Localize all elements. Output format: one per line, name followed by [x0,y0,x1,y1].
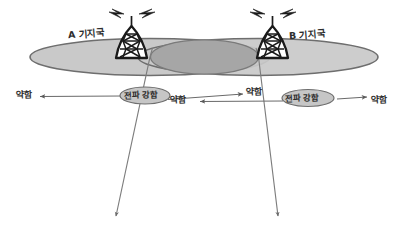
station-label-b: B 기지국 [289,26,326,43]
signal-arrow-b-left [200,101,283,102]
diagram-canvas: A 기지국 B 기지국 약함 전파 강함 약함 약함 전파 강함 약함 [0,0,407,239]
signal-label-strong-b: 전파 강함 [285,90,319,103]
diagram-artwork [0,0,407,239]
signal-label-weak-mid-left: 약함 [170,93,186,107]
signal-label-strong-a: 전파 강함 [124,87,158,100]
overlap-region [151,40,259,74]
signal-arrow-a-left [40,96,122,97]
signal-label-weak-far-right: 약함 [371,93,387,107]
signal-label-weak-far-left: 약함 [16,88,32,102]
signal-arrow-b-right [337,97,367,99]
signal-label-weak-mid-right: 약함 [246,85,262,99]
station-label-a: A 기지국 [68,25,106,42]
